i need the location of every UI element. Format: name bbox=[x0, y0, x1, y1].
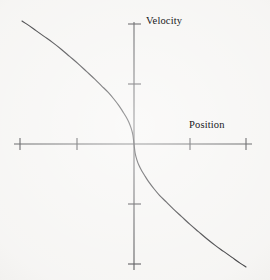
phase-plane-figure: Velocity Position bbox=[0, 0, 270, 280]
plot-canvas bbox=[0, 0, 270, 280]
x-axis-label-position: Position bbox=[189, 120, 225, 131]
y-axis-label-velocity: Velocity bbox=[146, 16, 182, 27]
